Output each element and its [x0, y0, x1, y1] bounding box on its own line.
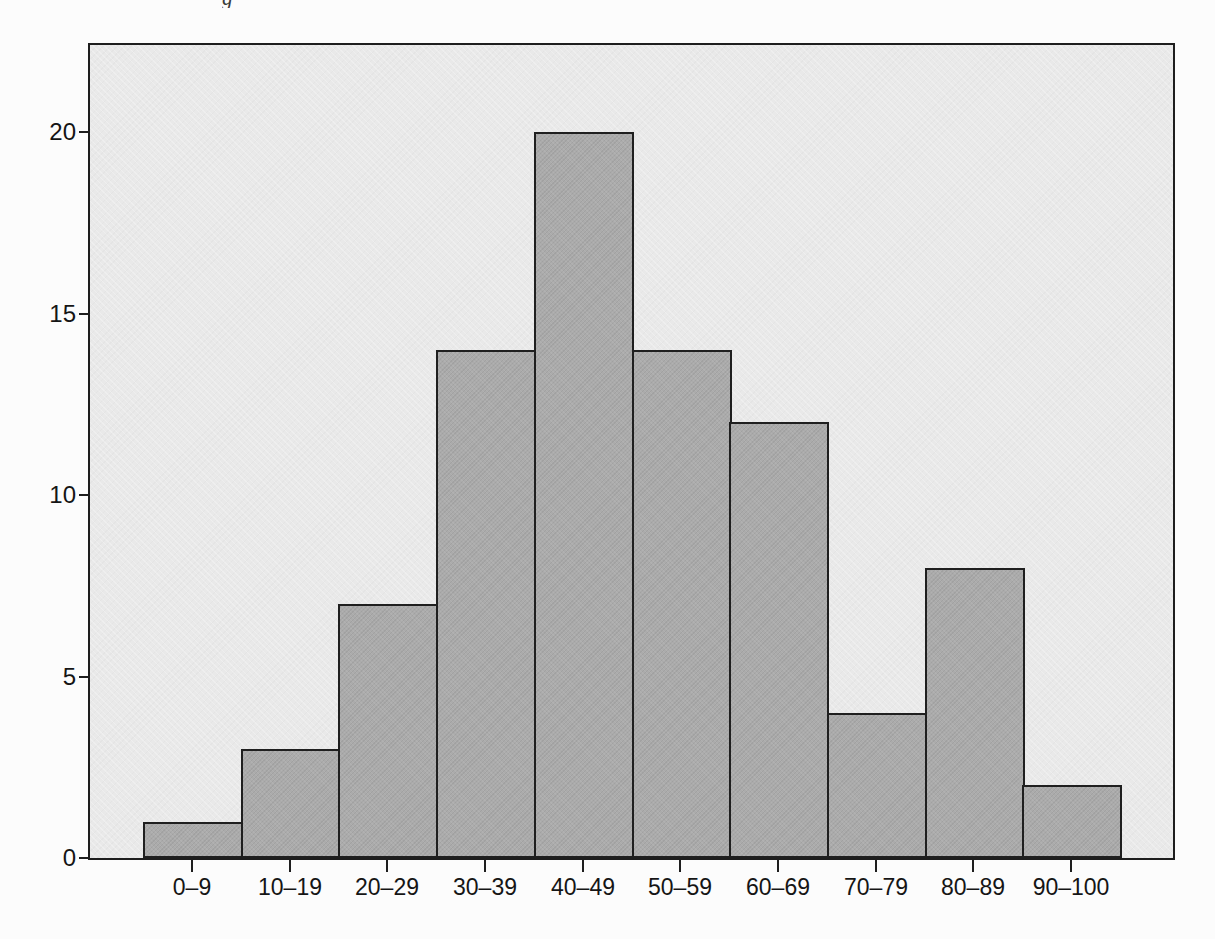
histogram-bar-90–100	[1022, 785, 1122, 858]
x-axis-tick-90–100	[1070, 860, 1072, 872]
histogram-bar-70–79	[827, 713, 927, 858]
histogram-bar-80–89	[925, 568, 1025, 858]
y-axis-tick-label-10: 10	[18, 480, 76, 510]
x-axis-tick-20–29	[386, 860, 388, 872]
y-axis-tick-0	[79, 857, 88, 859]
cropped-caption-text: g	[222, 0, 256, 8]
x-axis-tick-70–79	[875, 860, 877, 872]
y-axis-tick-5	[79, 676, 88, 678]
x-axis-tick-30–39	[484, 860, 486, 872]
y-axis-tick-label-15: 15	[18, 299, 76, 329]
histogram-bar-10–19	[241, 749, 341, 858]
histogram-bar-40–49	[534, 132, 634, 858]
histogram-bar-30–39	[436, 350, 536, 858]
histogram-bar-0–9	[143, 822, 243, 858]
y-axis-tick-label-0: 0	[18, 843, 76, 873]
histogram-bar-50–59	[632, 350, 732, 858]
x-axis-tick-60–69	[777, 860, 779, 872]
x-axis-tick-label-90–100: 90–100	[1001, 874, 1141, 900]
y-axis-tick-label-5: 5	[18, 662, 76, 692]
y-axis-tick-15	[79, 313, 88, 315]
x-axis-tick-80–89	[972, 860, 974, 872]
x-axis-tick-40–49	[582, 860, 584, 872]
x-axis-tick-10–19	[289, 860, 291, 872]
y-axis-tick-20	[79, 131, 88, 133]
x-axis-tick-0–9	[191, 860, 193, 872]
cropped-caption-fragment: g	[222, 0, 256, 8]
histogram-bar-60–69	[729, 422, 829, 858]
y-axis-tick-label-20: 20	[18, 117, 76, 147]
y-axis-tick-10	[79, 494, 88, 496]
histogram-bar-20–29	[338, 604, 438, 858]
x-axis-tick-50–59	[679, 860, 681, 872]
